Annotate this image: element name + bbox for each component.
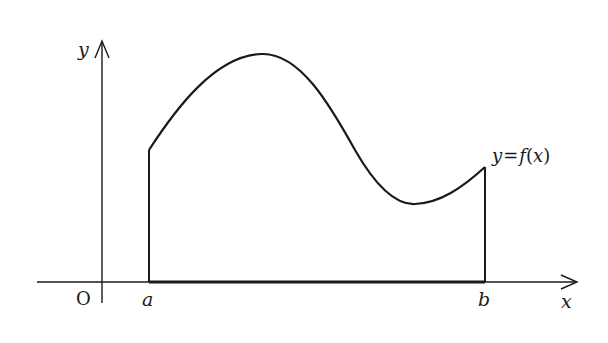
area-under-curve-diagram — [0, 0, 608, 343]
curve-label-close-paren: ) — [543, 145, 550, 166]
curve-label-open-paren: ( — [526, 145, 533, 166]
y-axis-label: y — [78, 40, 89, 59]
origin-label: O — [76, 290, 91, 308]
curve-label-equals: = — [503, 145, 518, 166]
curve-label-func: f — [519, 145, 526, 166]
x-axis-label: x — [561, 292, 572, 311]
curve-f-x — [149, 54, 485, 204]
bound-b-label: b — [478, 290, 490, 309]
curve-label-arg: x — [533, 145, 543, 166]
curve-label: y=f(x) — [492, 147, 550, 165]
curve-label-var: y — [492, 145, 502, 166]
bound-a-label: a — [142, 290, 153, 309]
